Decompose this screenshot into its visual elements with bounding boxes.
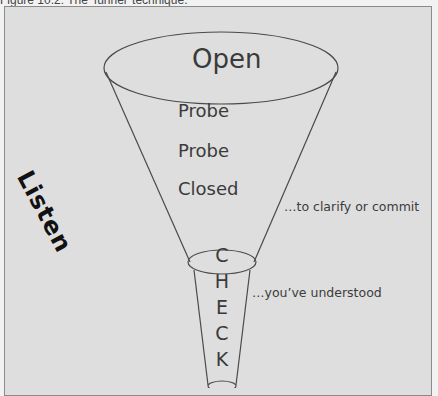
understood-annotation: …you’ve understood [252, 285, 382, 300]
tube-bottom-ellipse [208, 381, 236, 388]
check-letter-c2: C [212, 322, 232, 344]
open-label: Open [192, 44, 261, 74]
probe-label-1: Probe [178, 100, 229, 121]
closed-label: Closed [178, 178, 238, 199]
check-letter-h: H [212, 270, 232, 292]
tube-left-side [194, 270, 208, 385]
check-letter-e: E [212, 296, 232, 318]
tube-right-side [236, 270, 250, 385]
funnel-right-side [254, 72, 336, 262]
check-letter-k: K [212, 348, 232, 370]
clarify-annotation: …to clarify or commit [284, 199, 419, 214]
check-letter-c1: C [212, 244, 232, 266]
probe-label-2: Probe [178, 140, 229, 161]
